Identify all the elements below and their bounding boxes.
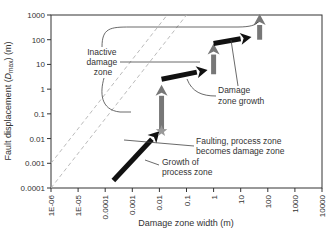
- x-tick-label: 0.0001: [101, 194, 110, 219]
- x-tick-label: 1E-05: [74, 194, 83, 216]
- leader-growth-2: [231, 40, 238, 86]
- y-axis-title: Fault displacement (Dmax) (m): [3, 42, 14, 161]
- x-tick-label: 1E-06: [47, 194, 56, 216]
- y-tick-label: 0.1: [34, 110, 46, 119]
- arrow-shaft: [214, 39, 241, 44]
- arrow-shaft: [113, 139, 152, 180]
- x-tick-label: 1000: [291, 194, 300, 212]
- bracket-bottom: [102, 78, 131, 112]
- x-tick-label: 1: [210, 194, 219, 199]
- arrow-head: [240, 33, 252, 45]
- leader-process: [145, 160, 159, 165]
- x-tick-label: 10000: [318, 194, 327, 217]
- x-tick-label: 10: [237, 194, 246, 203]
- arrow-shaft: [162, 72, 197, 79]
- y-tick-label: 10: [36, 60, 45, 69]
- y-tick-label: 0.001: [25, 159, 46, 168]
- chart: 1E-061E-050.00010.0010.010.1110100100010…: [0, 0, 332, 240]
- y-axis: 0.00010.0010.010.11101001000: [21, 11, 51, 193]
- x-tick-label: 0.001: [128, 194, 137, 215]
- y-tick-label: 0.0001: [21, 184, 46, 193]
- leader-growth-1: [187, 79, 216, 96]
- annotation-inactive-damage-zone: Inactive damage zone: [86, 47, 119, 77]
- bracket-top: [102, 22, 258, 47]
- leader-faulting: [124, 140, 194, 146]
- x-tick-label: 0.01: [155, 194, 164, 210]
- arrow-head: [156, 85, 168, 96]
- y-tick-label: 100: [32, 36, 46, 45]
- x-axis: 1E-061E-050.00010.0010.010.1110100100010…: [47, 188, 327, 219]
- annotation-damage-zone-growth: Damage zone growth: [218, 85, 265, 106]
- x-tick-label: 0.1: [183, 194, 192, 206]
- x-tick-label: 100: [264, 194, 273, 208]
- x-axis-title: Damage zone width (m): [138, 218, 234, 228]
- annotation-faulting: Faulting, process zone becomes damage zo…: [196, 136, 285, 156]
- y-tick-label: 1: [41, 85, 46, 94]
- arrow-head: [196, 66, 208, 78]
- y-tick-label: 0.01: [29, 135, 45, 144]
- arrow-head: [254, 14, 266, 25]
- y-tick-label: 1000: [27, 11, 45, 20]
- annotation-growth-of-process-zone: Growth of process zone: [162, 157, 213, 177]
